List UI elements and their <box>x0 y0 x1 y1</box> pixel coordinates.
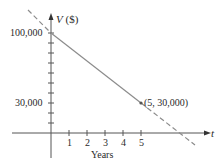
point-annotation: (5, 30,000) <box>144 98 188 108</box>
y-tick-label-100000: 100,000 <box>10 28 43 38</box>
line-segment <box>51 33 141 103</box>
line-extension-right <box>141 103 195 145</box>
x-tick-label-2: 2 <box>85 138 90 148</box>
x-tick-label-5: 5 <box>139 138 144 148</box>
x-axis-arrow-icon <box>204 131 211 136</box>
x-axis-title: Years <box>91 150 113 160</box>
depreciation-chart <box>0 0 216 164</box>
x-tick-label-3: 3 <box>103 138 108 148</box>
x-tick-label-1: 1 <box>67 138 72 148</box>
y-axis-arrow-icon <box>49 13 54 20</box>
x-tick-label-4: 4 <box>121 138 126 148</box>
x-axis-var: t <box>211 128 214 138</box>
y-axis-unit: ($) <box>63 13 79 25</box>
y-axis-var: V <box>56 13 63 25</box>
y-tick-label-30000: 30,000 <box>15 98 43 108</box>
data-point-marker <box>139 101 142 104</box>
y-axis-label: V ($) <box>56 14 78 24</box>
